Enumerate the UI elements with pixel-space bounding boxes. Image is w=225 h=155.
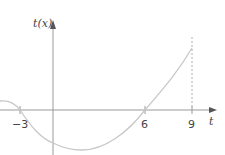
- function-curve: [0, 48, 192, 150]
- tick-label-6: 6: [141, 118, 148, 131]
- tick-label-neg3: −3: [12, 118, 28, 131]
- x-axis-label: t: [209, 115, 214, 128]
- y-axis-label: t(x): [33, 17, 52, 30]
- chart: t(x) t −3 6 9: [0, 0, 225, 155]
- tick-label-9: 9: [188, 118, 195, 131]
- x-axis-arrow-icon: [209, 107, 217, 113]
